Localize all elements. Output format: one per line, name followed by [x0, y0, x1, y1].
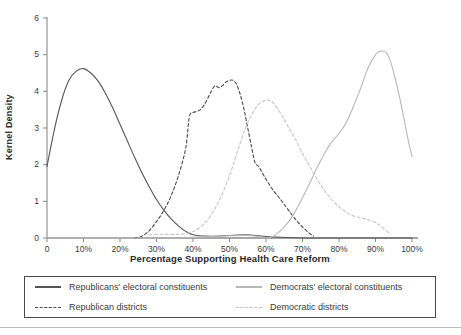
x-tick-label: 0 — [27, 244, 67, 254]
x-tick-label: 10% — [64, 244, 104, 254]
x-axis-title: Percentage Supporting Health Care Reform — [47, 253, 413, 264]
legend-item-democratic-districts: Democratic districts — [230, 302, 435, 312]
kernel-density-figure: Kernel Density Percentage Supporting Hea… — [0, 0, 461, 335]
x-tick-label: 90% — [356, 244, 396, 254]
legend-item-republicans-electoral-constituents: Republicans' electoral constituents — [25, 282, 230, 292]
y-tick-label: 2 — [27, 159, 39, 169]
x-tick-label: 100% — [392, 244, 432, 254]
y-tick-label: 1 — [27, 196, 39, 206]
legend-swatch-dashed-dark — [35, 307, 61, 308]
legend-swatch-dashed-light — [236, 307, 262, 308]
legend-swatch-solid-dark — [35, 286, 61, 287]
legend-item-democrats-electoral-constituents: Democrats' electoral constituents — [230, 282, 435, 292]
series-line-3 — [149, 100, 390, 235]
series-line-1 — [135, 80, 314, 238]
y-tick-label: 0 — [27, 233, 39, 243]
legend-label: Republicans' electoral constituents — [69, 282, 207, 292]
y-tick-label: 5 — [27, 49, 39, 59]
x-tick-label: 50% — [210, 244, 250, 254]
x-tick-label: 70% — [283, 244, 323, 254]
legend-item-republican-districts: Republican districts — [25, 302, 230, 312]
y-tick-label: 4 — [27, 86, 39, 96]
x-tick-label: 60% — [246, 244, 286, 254]
x-tick-label: 80% — [319, 244, 359, 254]
chart-legend: Republicans' electoral constituents Demo… — [24, 276, 436, 318]
y-tick-label: 3 — [27, 123, 39, 133]
x-tick-label: 40% — [173, 244, 213, 254]
legend-label: Republican districts — [69, 302, 147, 312]
legend-label: Democrats' electoral constituents — [270, 282, 402, 292]
series-line-0 — [47, 69, 412, 239]
page-bottom-rule — [0, 327, 461, 328]
x-tick-label: 30% — [137, 244, 177, 254]
series-line-2 — [47, 51, 412, 238]
legend-swatch-solid-light — [236, 286, 262, 287]
y-axis-title: Kernel Density — [2, 62, 16, 192]
legend-label: Democratic districts — [270, 302, 349, 312]
x-tick-label: 20% — [100, 244, 140, 254]
y-tick-label: 6 — [27, 13, 39, 23]
